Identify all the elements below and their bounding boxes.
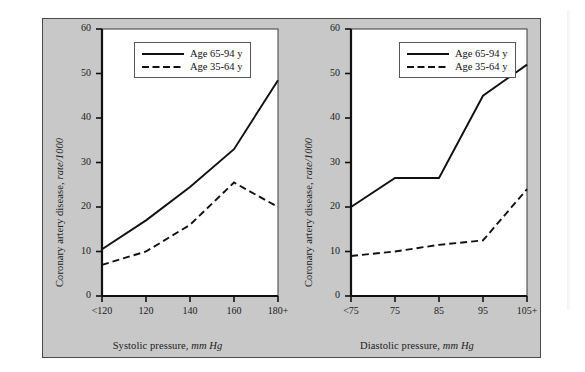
legend-item-0: Age 65-94 y	[406, 47, 508, 60]
x-tick-label: 160	[227, 305, 242, 316]
y-tick-label: 20	[310, 200, 340, 211]
legend-swatch-dashed	[406, 62, 450, 72]
legend-swatch-solid	[141, 49, 185, 59]
legend-item-0: Age 65-94 y	[141, 47, 243, 60]
x-tick-label: <75	[343, 305, 359, 316]
legend-item-1: Age 35-64 y	[141, 60, 243, 73]
x-tick-label: 140	[183, 305, 198, 316]
y-tick-label: 0	[61, 289, 91, 300]
legend-label-0: Age 65-94 y	[190, 48, 243, 59]
y-axis-title-text: Coronary artery disease,	[54, 182, 65, 287]
x-axis-title-text: Diastolic pressure,	[360, 340, 440, 351]
y-axis-title: Coronary artery disease, rate/1000	[303, 138, 314, 287]
x-tick-label: 105+	[517, 305, 538, 316]
legend-swatch-dashed	[141, 62, 185, 72]
x-axis-title: Diastolic pressure, mm Hg	[292, 340, 542, 351]
x-axis-title: Systolic pressure, mm Hg	[43, 340, 292, 351]
y-tick-label: 10	[61, 245, 91, 256]
y-axis-title-units: rate/1000	[303, 138, 314, 180]
y-tick-label: 30	[310, 156, 340, 167]
x-tick-label: 180+	[268, 305, 289, 316]
legend-item-1: Age 35-64 y	[406, 60, 508, 73]
y-axis-title-text: Coronary artery disease,	[303, 182, 314, 287]
chart-panel-systolic: 0102030405060 <120120140160180+ Coronary…	[43, 19, 292, 357]
x-tick-label: 95	[478, 305, 488, 316]
legend-swatch-solid	[406, 49, 450, 59]
scan-edge-artifact	[567, 10, 570, 310]
x-tick-label: 85	[434, 305, 444, 316]
x-tick-label: <120	[92, 305, 113, 316]
x-axis-title-text: Systolic pressure,	[113, 340, 189, 351]
y-tick-label: 60	[61, 22, 91, 33]
y-tick-label: 40	[61, 111, 91, 122]
y-tick-label: 20	[61, 200, 91, 211]
y-axis-title-units: rate/1000	[54, 138, 65, 180]
x-tick-label: 120	[139, 305, 154, 316]
legend-label-0: Age 65-94 y	[455, 48, 508, 59]
chart-panel-diastolic: 0102030405060 <75758595105+ Coronary art…	[292, 19, 542, 357]
y-tick-label: 30	[61, 156, 91, 167]
y-tick-label: 50	[310, 67, 340, 78]
y-tick-label: 50	[61, 67, 91, 78]
legend: Age 65-94 y Age 35-64 y	[134, 42, 251, 78]
y-tick-label: 10	[310, 245, 340, 256]
legend-label-1: Age 35-64 y	[190, 61, 243, 72]
y-axis-title: Coronary artery disease, rate/1000	[54, 138, 65, 287]
y-tick-label: 0	[310, 289, 340, 300]
x-axis-title-units: mm Hg	[443, 340, 474, 351]
legend-label-1: Age 35-64 y	[455, 61, 508, 72]
y-tick-label: 60	[310, 22, 340, 33]
legend: Age 65-94 y Age 35-64 y	[399, 42, 516, 78]
figure-frame: 0102030405060 <120120140160180+ Coronary…	[42, 18, 541, 358]
y-tick-label: 40	[310, 111, 340, 122]
x-tick-label: 75	[390, 305, 400, 316]
x-axis-title-units: mm Hg	[191, 340, 222, 351]
